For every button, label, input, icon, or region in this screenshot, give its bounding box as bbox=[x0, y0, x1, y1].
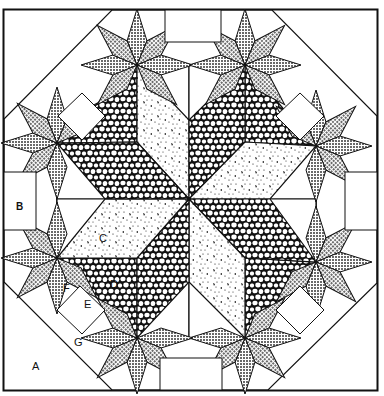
label-C: C bbox=[99, 232, 107, 244]
bottom-rectangle bbox=[160, 358, 222, 390]
quilt-diagram: A B C D E F G bbox=[0, 0, 384, 396]
label-A: A bbox=[32, 360, 40, 372]
top-rectangle bbox=[165, 10, 221, 42]
center-point bbox=[187, 197, 191, 201]
label-E: E bbox=[84, 298, 91, 310]
label-B: B bbox=[16, 201, 23, 212]
label-F: F bbox=[63, 282, 70, 294]
label-G: G bbox=[74, 336, 83, 348]
right-rectangle bbox=[345, 172, 377, 230]
label-D: D bbox=[110, 278, 118, 290]
